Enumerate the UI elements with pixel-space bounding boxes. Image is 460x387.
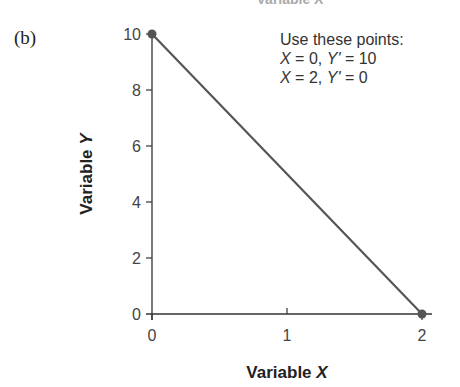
y-tick-8: 8 [132,82,141,99]
regression-chart: Variable X (b) 10 8 6 4 2 0 0 1 2 Variab… [0,0,460,387]
annotation-line-2: X = 0, Y' = 10 [279,50,377,67]
x-tick-1: 1 [283,327,292,344]
point-x2-y0 [418,310,427,319]
x-tick-labels: 0 1 2 [148,327,427,344]
point-x0-y10 [148,30,157,39]
y-axis-title: Variable Y [77,132,96,215]
y-ticks [146,34,152,258]
y-tick-6: 6 [132,138,141,155]
cut-off-title: Variable X [257,0,325,7]
x-axis-title-word: Variable [246,363,316,382]
panel-label: (b) [14,27,36,49]
y-tick-labels: 10 8 6 4 2 0 [123,26,141,323]
x-tick-2: 2 [418,327,427,344]
annotation-line-1: Use these points: [280,31,404,48]
y-tick-0: 0 [132,306,141,323]
y-tick-4: 4 [132,194,141,211]
annotation: Use these points: X = 0, Y' = 10 X = 2, … [279,31,404,86]
y-tick-2: 2 [132,250,141,267]
x-axis-title: Variable X [246,363,329,382]
y-tick-10: 10 [123,26,141,43]
x-tick-0: 0 [148,327,157,344]
annotation-line-3: X = 2, Y' = 0 [279,69,368,86]
